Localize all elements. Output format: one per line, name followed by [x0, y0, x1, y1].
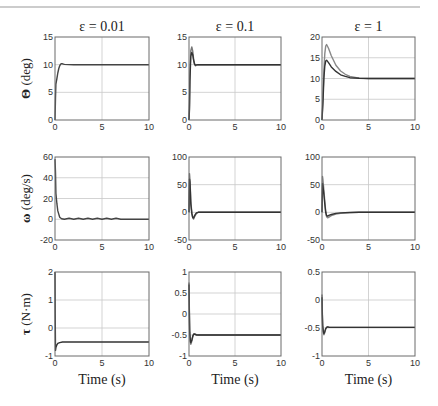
x-tick-label: 5	[99, 122, 104, 132]
y-tick-label: 0	[182, 115, 187, 125]
y-tick-label: 0	[315, 207, 320, 217]
y-tick-label: 1	[48, 295, 53, 305]
y-tick-label: 0	[182, 309, 187, 319]
subplot-r0-c1: 0510051015	[177, 32, 286, 132]
y-tick-label: 60	[43, 152, 53, 162]
subplot-r2-c0: 0510-1012	[45, 267, 154, 368]
row-ylabel: τ (N·m)	[18, 293, 33, 335]
y-tick-label: 0	[182, 207, 187, 217]
y-tick-label: 5	[182, 87, 187, 97]
x-tick-label: 5	[232, 242, 237, 252]
x-axis-label: Time (s)	[345, 372, 393, 388]
y-tick-label: 10	[177, 60, 187, 70]
subplot-r1-c0: 0510-200204060	[40, 152, 154, 252]
x-tick-label: 0	[319, 242, 324, 252]
y-tick-label: 5	[315, 94, 320, 104]
y-tick-label: -50	[307, 235, 320, 245]
y-tick-label: 1	[182, 267, 187, 277]
row-ylabel: ω (deg/s)	[18, 174, 33, 223]
y-tick-label: 5	[48, 87, 53, 97]
y-tick-label: 100	[172, 152, 187, 162]
y-tick-label: 10	[43, 60, 53, 70]
column-title: ε = 1	[355, 19, 383, 34]
y-tick-label: -0.5	[171, 330, 187, 340]
x-tick-label: 5	[232, 358, 237, 368]
x-tick-label: 5	[232, 122, 237, 132]
y-tick-label: 100	[305, 152, 320, 162]
y-tick-label: -1	[45, 351, 53, 361]
row-ylabel: Θ (deg)	[18, 58, 33, 99]
y-tick-label: 0.5	[307, 267, 320, 277]
column-title: ε = 0.1	[216, 19, 254, 34]
subplots-layer: ε = 0.01ε = 0.1ε = 1Θ (deg)ω (deg/s)τ (N…	[18, 19, 420, 388]
y-tick-label: -1	[312, 351, 320, 361]
y-tick-label: 50	[310, 180, 320, 190]
y-tick-label: -50	[174, 235, 187, 245]
x-axis-label: Time (s)	[78, 372, 126, 388]
subplot-r0-c0: 0510051015	[43, 32, 154, 132]
x-tick-label: 10	[276, 242, 286, 252]
column-title: ε = 0.01	[79, 19, 124, 34]
x-tick-label: 10	[144, 122, 154, 132]
y-tick-label: 20	[43, 194, 53, 204]
y-tick-label: -20	[40, 235, 53, 245]
x-tick-label: 5	[366, 242, 371, 252]
y-tick-label: 0	[315, 115, 320, 125]
subplot-r0-c2: 051005101520	[310, 32, 420, 132]
subplot-r2-c1: 0510-1-0.500.51	[171, 267, 286, 368]
subplot-r2-c2: 0510-1-0.500.5	[304, 267, 420, 368]
y-tick-label: 20	[310, 32, 320, 42]
y-tick-label: -1	[179, 351, 187, 361]
x-tick-label: 10	[144, 242, 154, 252]
y-tick-label: 50	[177, 180, 187, 190]
x-tick-label: 0	[52, 122, 57, 132]
y-tick-label: 0	[48, 214, 53, 224]
x-tick-label: 0	[52, 358, 57, 368]
x-tick-label: 0	[52, 242, 57, 252]
x-tick-label: 0	[186, 122, 191, 132]
y-tick-label: 0	[48, 323, 53, 333]
x-tick-label: 5	[99, 242, 104, 252]
y-tick-label: 15	[43, 32, 53, 42]
x-tick-label: 0	[186, 242, 191, 252]
y-tick-label: 15	[310, 53, 320, 63]
y-tick-label: 2	[48, 267, 53, 277]
y-tick-label: 10	[310, 74, 320, 84]
y-tick-label: -0.5	[304, 323, 320, 333]
y-tick-label: 0	[315, 295, 320, 305]
subplot-r1-c1: 0510-50050100	[172, 152, 286, 252]
x-tick-label: 10	[276, 122, 286, 132]
y-tick-label: 0	[48, 115, 53, 125]
x-tick-label: 0	[186, 358, 191, 368]
subplot-r1-c2: 0510-50050100	[305, 152, 420, 252]
x-tick-label: 0	[319, 358, 324, 368]
x-tick-label: 10	[410, 358, 420, 368]
x-tick-label: 0	[319, 122, 324, 132]
y-tick-label: 15	[177, 32, 187, 42]
x-tick-label: 10	[144, 358, 154, 368]
x-tick-label: 10	[276, 358, 286, 368]
x-axis-label: Time (s)	[211, 372, 259, 388]
y-tick-label: 40	[43, 173, 53, 183]
y-tick-label: 0.5	[174, 288, 187, 298]
x-tick-label: 5	[366, 122, 371, 132]
x-tick-label: 10	[410, 122, 420, 132]
x-tick-label: 10	[410, 242, 420, 252]
x-tick-label: 5	[366, 358, 371, 368]
figure-grid: ε = 0.01ε = 0.1ε = 1Θ (deg)ω (deg/s)τ (N…	[0, 0, 438, 406]
x-tick-label: 5	[99, 358, 104, 368]
